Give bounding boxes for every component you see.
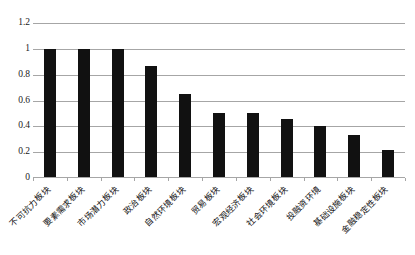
bar (382, 150, 394, 178)
bar (348, 135, 360, 178)
bar-chart: 1.210.80.60.40.20 不可抗力板块要素需求板块市场潜力板块政治板块… (0, 0, 415, 255)
bar (179, 94, 191, 178)
y-tick-label: 0.6 (0, 96, 30, 106)
y-tick-label: 0.2 (0, 147, 30, 157)
x-axis-labels: 不可抗力板块要素需求板块市场潜力板块政治板块自然环境板块贸易板块宏观经济板块社会… (0, 179, 415, 255)
y-tick-label: 0.8 (0, 70, 30, 80)
x-axis-label-text: 贸易板块 (190, 185, 221, 216)
bar (112, 49, 124, 178)
bar (247, 113, 259, 178)
bars-layer (33, 23, 405, 178)
x-axis-label-text: 政治板块 (123, 185, 154, 216)
x-axis-label: 政治板块 (123, 185, 154, 216)
plot-area (33, 23, 405, 178)
x-axis-label: 贸易板块 (190, 185, 221, 216)
y-tick-label: 1.2 (0, 18, 30, 28)
y-tick-label: 1 (0, 44, 30, 54)
bar (44, 49, 56, 178)
x-axis-line (33, 177, 405, 178)
bar (213, 113, 225, 178)
bar (145, 66, 157, 178)
bar (314, 126, 326, 178)
y-tick-label: 0.4 (0, 121, 30, 131)
bar (281, 119, 293, 178)
bar (78, 49, 90, 178)
